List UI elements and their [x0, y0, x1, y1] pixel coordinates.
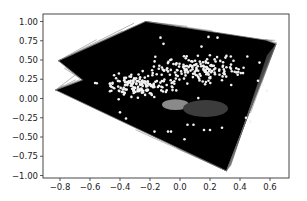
y-tick-label: −0.75	[12, 151, 38, 161]
gray-region-dark	[183, 100, 228, 117]
y-tick-label: 0.00	[19, 94, 38, 104]
y-tick-label: 1.00	[19, 17, 38, 27]
y-tick-label: 0.25	[19, 74, 38, 84]
x-tick-label: 0.6	[263, 182, 277, 192]
x-tick-label: 0.2	[203, 182, 217, 192]
y-tick-label: −0.50	[12, 132, 38, 142]
y-tick-label: −0.25	[12, 113, 38, 123]
x-axis: −0.8−0.6−0.4−0.20.00.20.40.6	[50, 178, 277, 192]
x-tick-label: 0.0	[173, 182, 187, 192]
y-tick-label: −1.00	[12, 171, 38, 181]
x-tick-label: −0.8	[50, 182, 71, 192]
x-tick-label: −0.2	[140, 182, 161, 192]
x-tick-label: 0.4	[233, 182, 247, 192]
x-tick-label: −0.6	[80, 182, 101, 192]
scatter-chart: −0.8−0.6−0.4−0.20.00.20.40.6 1.000.750.5…	[0, 0, 307, 201]
y-axis: 1.000.750.500.250.00−0.25−0.50−0.75−1.00	[12, 17, 43, 181]
plot-area	[56, 22, 277, 171]
x-tick-label: −0.4	[110, 182, 131, 192]
y-tick-label: 0.75	[19, 36, 38, 46]
y-tick-label: 0.50	[19, 55, 38, 65]
